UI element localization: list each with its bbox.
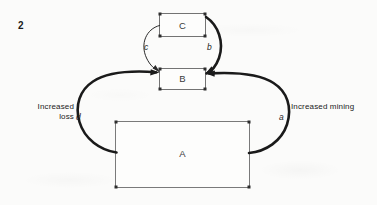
node-b-corner-tr xyxy=(204,68,207,71)
edge-c-label: c xyxy=(144,43,148,52)
figure-canvas: 2 xyxy=(0,0,377,205)
annotation-increased-loss: Increased loss xyxy=(0,102,74,122)
node-b-corner-br xyxy=(204,88,207,91)
node-b-label: B xyxy=(159,74,206,84)
node-c-corner-tl xyxy=(159,13,162,16)
node-a-label: A xyxy=(115,149,250,159)
node-a-corner-tr xyxy=(248,121,251,124)
node-c-corner-bl xyxy=(159,35,162,38)
annotation-increased-mining: Increased mining xyxy=(291,102,377,112)
edge-d-label: d xyxy=(76,113,81,122)
node-a-corner-bl xyxy=(115,186,118,189)
node-c-corner-tr xyxy=(204,13,207,16)
node-b-corner-tl xyxy=(159,68,162,71)
edge-b-label: b xyxy=(207,43,212,52)
node-a-corner-br xyxy=(248,186,251,189)
node-a-corner-tl xyxy=(115,121,118,124)
edge-a-label: a xyxy=(279,113,284,122)
node-b-corner-bl xyxy=(159,88,162,91)
node-c-corner-br xyxy=(204,35,207,38)
node-c-label: C xyxy=(159,21,206,31)
